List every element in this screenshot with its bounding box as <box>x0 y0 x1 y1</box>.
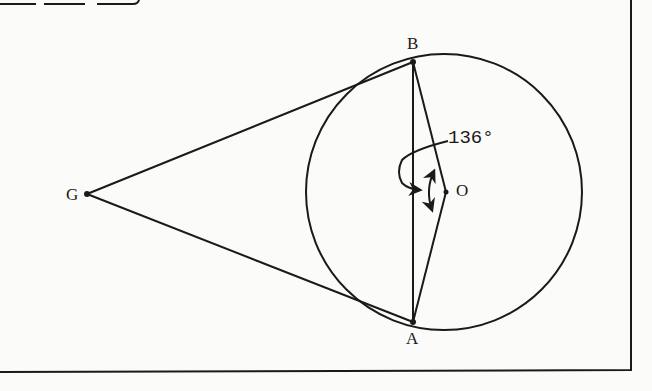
label-g: G <box>66 186 78 203</box>
frame-border <box>0 0 631 372</box>
radius-oa <box>413 192 446 322</box>
angle-label-136: 136° <box>448 129 494 148</box>
point-o <box>444 190 449 195</box>
point-a <box>410 319 416 325</box>
frame-right-bottom <box>0 0 631 372</box>
point-g <box>84 191 90 197</box>
tangent-ga <box>87 194 413 322</box>
angle-leader-arrow-icon <box>399 141 448 190</box>
label-b: B <box>407 35 418 52</box>
point-b <box>410 59 416 65</box>
frame-dash-3 <box>97 0 139 4</box>
geometry-diagram <box>0 0 652 391</box>
angle-arc-icon <box>429 171 434 210</box>
label-o: O <box>456 182 468 199</box>
tangent-gb <box>87 62 413 194</box>
label-a: A <box>406 330 418 347</box>
radius-ob <box>413 62 446 192</box>
